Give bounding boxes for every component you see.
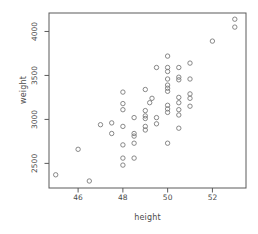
data-point [177, 95, 181, 99]
y-tick-label: 4000 [30, 22, 39, 41]
data-point [165, 89, 169, 93]
data-point [188, 61, 192, 65]
data-point [121, 124, 125, 128]
data-point [132, 115, 136, 119]
data-point [87, 179, 91, 183]
data-point [132, 156, 136, 160]
data-point [132, 141, 136, 145]
data-point [110, 121, 114, 125]
data-point [121, 163, 125, 167]
data-point [177, 108, 181, 112]
data-point [143, 108, 147, 112]
scatter-plot-figure: 464850522500300035004000 height weight [0, 0, 258, 234]
plot-border [49, 13, 246, 188]
x-tick-label: 48 [118, 193, 128, 202]
data-point [177, 126, 181, 130]
data-point [177, 65, 181, 69]
y-tick-label: 3000 [30, 110, 39, 129]
y-tick-label: 3500 [30, 66, 39, 85]
data-point [165, 77, 169, 81]
data-point [154, 122, 158, 126]
data-point [165, 141, 169, 145]
data-point [143, 87, 147, 91]
data-point [233, 25, 237, 29]
data-point [110, 131, 114, 135]
data-point [188, 104, 192, 108]
data-point [148, 101, 152, 105]
data-point [177, 101, 181, 105]
data-point [154, 115, 158, 119]
data-point [188, 77, 192, 81]
scatter-plot-canvas: 464850522500300035004000 [0, 0, 258, 234]
data-point [188, 92, 192, 96]
data-point [121, 108, 125, 112]
data-point [165, 54, 169, 58]
data-point [188, 96, 192, 100]
data-point [154, 65, 158, 69]
data-point [54, 173, 58, 177]
y-tick-label: 2500 [30, 154, 39, 173]
data-point [121, 101, 125, 105]
data-point [76, 147, 80, 151]
data-point [233, 17, 237, 21]
x-axis-title: height [49, 213, 246, 222]
data-point [150, 96, 154, 100]
data-point [121, 90, 125, 94]
x-tick-label: 46 [73, 193, 83, 202]
y-axis-title: weight [19, 76, 28, 104]
x-tick-label: 52 [208, 193, 218, 202]
data-point [121, 156, 125, 160]
data-point [177, 113, 181, 117]
data-point [210, 39, 214, 43]
data-point [121, 143, 125, 147]
x-tick-label: 50 [163, 193, 173, 202]
data-point [98, 123, 102, 127]
